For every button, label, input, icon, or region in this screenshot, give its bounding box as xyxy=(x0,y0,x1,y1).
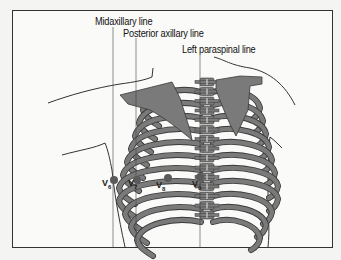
lead-v7-number: 7 xyxy=(134,184,137,190)
posterior-chest-illustration xyxy=(0,0,341,260)
diagram-canvas: Midaxillary line Posterior axillary line… xyxy=(0,0,341,260)
lead-label-v6: V6 xyxy=(102,178,111,190)
posterior-axillary-line-label: Posterior axillary line xyxy=(123,28,204,39)
lead-label-v7: V7 xyxy=(128,178,137,190)
midaxillary-line-label: Midaxillary line xyxy=(95,16,152,27)
lead-v8-number: 8 xyxy=(162,186,165,192)
left-paraspinal-line-label: Left paraspinal line xyxy=(182,44,256,55)
lead-v9-number: 9 xyxy=(198,185,201,191)
lead-label-v8: V8 xyxy=(156,180,165,192)
lead-v6-number: 6 xyxy=(108,184,111,190)
lead-label-v9: V9 xyxy=(192,179,201,191)
